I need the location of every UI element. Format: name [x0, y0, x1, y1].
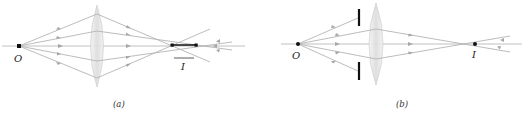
image-start-point — [171, 44, 174, 47]
object-label: O — [292, 50, 300, 61]
caption-b: (b) — [396, 99, 408, 109]
panel-b: O I (b) — [281, 3, 522, 109]
image-label: I — [471, 49, 477, 60]
object-label: O — [14, 53, 22, 64]
caption-a: (a) — [113, 99, 125, 109]
image-label: I — [180, 61, 186, 72]
image-end-point — [195, 44, 198, 47]
converging-lens — [91, 5, 104, 87]
panel-a: O I (a) — [2, 5, 245, 109]
optics-figure: O I (a) — [0, 0, 526, 115]
image-point — [473, 42, 477, 46]
object-point — [296, 42, 300, 46]
converging-lens — [369, 3, 383, 85]
object-point — [17, 44, 21, 48]
rays — [298, 18, 510, 71]
